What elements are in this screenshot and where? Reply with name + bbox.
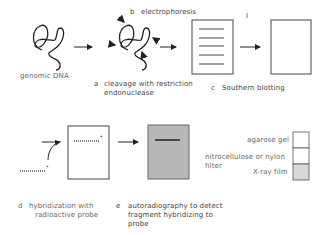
probe-icon: * [20,164,49,171]
legend-boxes [293,132,309,180]
step-b-letter: b [130,8,135,17]
legend-xray-film: X-ray film [253,168,288,177]
curved-arrow [48,142,60,160]
step-a-letter: a [94,80,98,89]
marker-i: I [246,12,248,21]
diagram-canvas: * * [0,0,324,235]
step-d-line2: radioactive probe [35,211,98,220]
legend-agarose-gel: agarose gel [247,136,289,145]
step-e-letter: e [116,202,120,211]
cleaved-dna-icon [109,17,158,70]
genomic-dna-icon [34,25,64,70]
step-a-line1: cleavage with restriction [104,80,193,89]
step-d-line1: hybridization with [29,202,93,211]
hybridization-filter-box: * [68,126,109,179]
legend-filter-line2: filter [205,162,222,171]
step-e-line1: autoradiography to detect [128,202,223,211]
genomic-dna-label: genomic DNA [20,72,69,81]
legend-filter-line1: nitrocellulose or nylon [205,153,285,162]
agarose-gel-box [192,20,233,74]
step-a-line2: endonuclease [104,89,154,98]
step-c-label: Southern blotting [222,84,285,93]
step-b-label: electrophoresis [141,8,196,17]
step-e-line2: fragment hybridizing to [128,211,213,220]
step-d-letter: d [18,202,23,211]
xray-film-box [148,125,189,179]
svg-text:*: * [46,164,49,170]
step-e-line3: probe [128,220,149,229]
step-c-letter: c [211,84,215,93]
filter-box [271,20,311,74]
